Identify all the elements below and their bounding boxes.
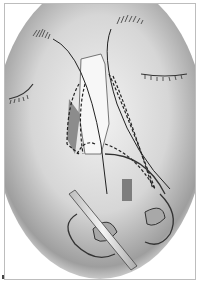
nasal-surgery-illustration [5, 4, 195, 279]
septal-graft [122, 179, 132, 201]
corner-mark [2, 275, 4, 279]
dorsal-graft [79, 54, 109, 154]
illustration-frame [4, 3, 196, 280]
